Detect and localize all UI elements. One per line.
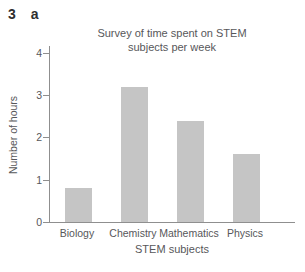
bar-chemistry bbox=[121, 87, 148, 222]
bar-mathematics bbox=[177, 121, 204, 223]
y-tick-mark-4 bbox=[43, 53, 49, 54]
y-tick-label-3: 3 bbox=[22, 89, 42, 102]
y-tick-mark-3 bbox=[43, 95, 49, 96]
bar-biology bbox=[65, 188, 92, 222]
y-tick-label-4: 4 bbox=[22, 47, 42, 60]
plot-area: 01234 bbox=[49, 46, 295, 223]
x-axis-labels: BiologyChemistryMathematicsPhysics bbox=[49, 227, 295, 241]
y-tick-label-2: 2 bbox=[22, 131, 42, 144]
bar-physics bbox=[233, 154, 260, 222]
y-tick-mark-2 bbox=[43, 137, 49, 138]
exercise-label: 3 a bbox=[8, 6, 38, 22]
y-tick-label-1: 1 bbox=[22, 174, 42, 187]
exercise-part: a bbox=[31, 6, 39, 22]
textbook-page: 3 a Survey of time spent on STEM subject… bbox=[0, 0, 305, 272]
x-category-label-physics: Physics bbox=[203, 227, 287, 239]
y-tick-mark-1 bbox=[43, 180, 49, 181]
x-axis-title: STEM subjects bbox=[49, 243, 295, 255]
y-tick-mark-0 bbox=[43, 222, 49, 223]
y-axis-title: Number of hours bbox=[7, 96, 19, 174]
exercise-number: 3 bbox=[8, 6, 16, 22]
